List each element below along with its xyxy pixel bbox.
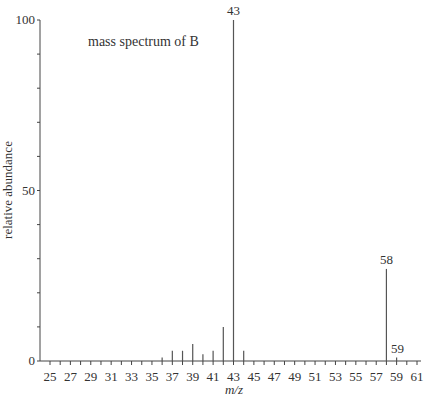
- x-tick-label: 37: [166, 369, 180, 384]
- x-tick-label: 55: [349, 369, 362, 384]
- x-tick-label: 39: [186, 369, 199, 384]
- x-tick-label: 53: [329, 369, 342, 384]
- chart-title: mass spectrum of B: [88, 34, 199, 49]
- x-tick-label: 61: [411, 369, 424, 384]
- x-tick-label: 47: [268, 369, 282, 384]
- peak-label-58: 58: [380, 252, 393, 267]
- x-tick-label: 25: [44, 369, 57, 384]
- x-tick-label: 49: [288, 369, 301, 384]
- y-tick-label: 100: [16, 12, 36, 27]
- peak-label-43: 43: [227, 3, 240, 18]
- x-tick-label: 59: [390, 369, 403, 384]
- x-axis-label: m/z: [225, 382, 243, 397]
- y-tick-label: 50: [22, 183, 35, 198]
- x-tick-label: 29: [84, 369, 97, 384]
- labels: 435859: [227, 3, 404, 356]
- x-tick-label: 51: [309, 369, 322, 384]
- x-tick-label: 33: [125, 369, 138, 384]
- x-tick-label: 45: [247, 369, 260, 384]
- peak-label-59: 59: [391, 341, 404, 356]
- x-tick-label: 57: [370, 369, 384, 384]
- y-tick-label: 0: [29, 353, 36, 368]
- x-tick-label: 41: [207, 369, 220, 384]
- x-tick-label: 35: [145, 369, 158, 384]
- axes: 0501002527293133353739414345474951535557…: [16, 12, 424, 384]
- x-tick-label: 27: [64, 369, 78, 384]
- peaks: [162, 20, 396, 361]
- y-axis-label: relative abundance: [0, 141, 15, 239]
- mass-spectrum-chart: 0501002527293133353739414345474951535557…: [0, 0, 426, 401]
- x-tick-label: 31: [105, 369, 118, 384]
